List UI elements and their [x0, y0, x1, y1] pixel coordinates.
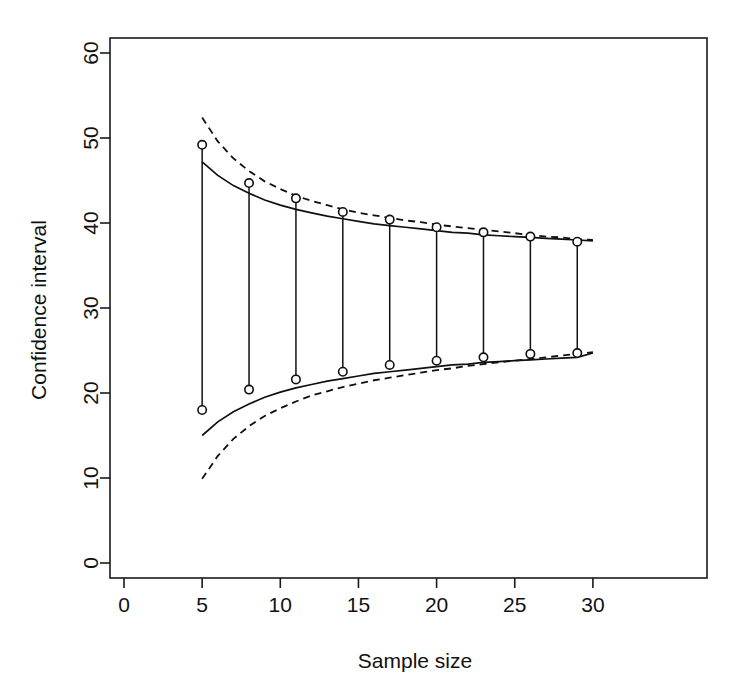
data-point-marker	[386, 215, 394, 223]
data-point-marker	[432, 357, 440, 365]
y-axis-ticks: 0102030405060	[79, 41, 111, 569]
curve-solid	[202, 162, 593, 241]
data-point-marker	[245, 179, 253, 187]
data-point-marker	[245, 385, 253, 393]
x-tick-label: 5	[196, 593, 208, 616]
curve-dashed	[202, 118, 593, 240]
x-tick-label: 20	[425, 593, 448, 616]
y-tick-label: 30	[79, 296, 102, 319]
curve-solid	[202, 353, 593, 435]
data-point-marker	[526, 350, 534, 358]
x-axis-title: Sample size	[358, 649, 472, 672]
figure-panel: 0102030405060 051015202530 Confidence in…	[0, 0, 743, 694]
data-point-marker	[339, 368, 347, 376]
data-point-marker	[292, 194, 300, 202]
data-point-marker	[573, 349, 581, 357]
plot-box	[110, 38, 707, 578]
x-tick-label: 30	[581, 593, 604, 616]
y-tick-label: 0	[79, 557, 102, 569]
y-tick-label: 10	[79, 466, 102, 489]
y-tick-label: 20	[79, 381, 102, 404]
y-tick-label: 50	[79, 126, 102, 149]
data-point-marker	[198, 406, 206, 414]
x-tick-label: 10	[269, 593, 292, 616]
y-axis-title: Confidence interval	[27, 220, 50, 400]
x-tick-label: 15	[347, 593, 370, 616]
data-point-marker	[573, 238, 581, 246]
y-tick-label: 40	[79, 211, 102, 234]
x-tick-label: 0	[118, 593, 130, 616]
curve-series	[202, 118, 593, 479]
data-point-marker	[479, 353, 487, 361]
data-point-marker	[198, 141, 206, 149]
whisker-segments	[202, 145, 577, 410]
x-axis-ticks: 051015202530	[118, 578, 604, 616]
x-tick-label: 25	[503, 593, 526, 616]
data-point-marker	[526, 232, 534, 240]
data-point-marker	[292, 375, 300, 383]
data-point-marker	[339, 208, 347, 216]
data-point-marker	[386, 361, 394, 369]
y-tick-label: 60	[79, 41, 102, 64]
data-point-marker	[479, 228, 487, 236]
confidence-interval-chart: 0102030405060 051015202530 Confidence in…	[0, 0, 743, 694]
data-point-marker	[432, 223, 440, 231]
